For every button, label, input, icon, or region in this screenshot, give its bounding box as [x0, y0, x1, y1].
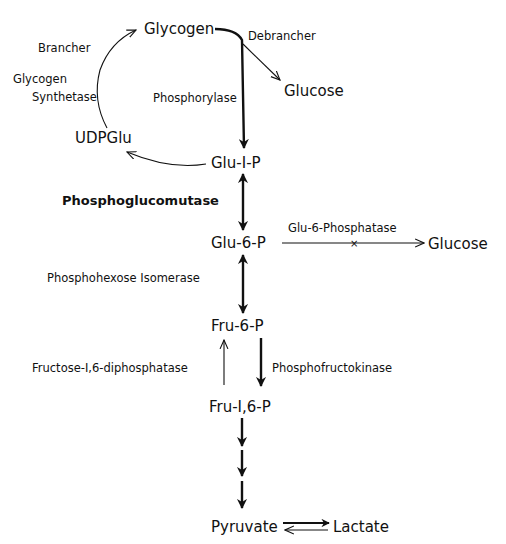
enzyme-debrancher: Debrancher [248, 29, 316, 43]
node-glu-1-p: Glu-I-P [211, 154, 261, 172]
enzyme-phosphohexose-isomerase: Phosphohexose Isomerase [47, 271, 200, 285]
glycogen-metabolism-diagram: Glycogen Glucose UDPGlu Glu-I-P Glu-6-P … [0, 0, 506, 544]
enzyme-phosphorylase: Phosphorylase [153, 91, 237, 105]
enzyme-brancher: Brancher [38, 41, 91, 55]
enzyme-phosphoglucomutase: Phosphoglucomutase [62, 193, 219, 208]
node-fru-1-6-p: Fru-I,6-P [209, 398, 271, 416]
node-fru-6-p: Fru-6-P [211, 317, 264, 335]
arrow-udpglu-to-glycogen [97, 30, 136, 128]
node-glucose-debrancher: Glucose [284, 82, 344, 100]
enzyme-glycogen-synthetase-line2: Synthetase [32, 90, 97, 104]
node-glucose-phosphatase: Glucose [428, 235, 488, 253]
arrow-debrancher [243, 44, 280, 80]
node-glycogen: Glycogen [144, 20, 214, 38]
arrow-glu1p-to-udpglu [127, 152, 206, 166]
node-glu-6-p: Glu-6-P [211, 234, 266, 252]
node-pyruvate: Pyruvate [211, 518, 278, 536]
blocked-mark-icon: × [350, 238, 358, 249]
enzyme-phosphofructokinase: Phosphofructokinase [272, 361, 392, 375]
enzyme-fructose-diphosphatase: Fructose-I,6-diphosphatase [32, 361, 188, 375]
arrow-phosphorylase [215, 29, 244, 148]
node-lactate: Lactate [333, 518, 389, 536]
enzyme-glycogen-synthetase-line1: Glycogen [13, 72, 67, 86]
node-udpglu: UDPGlu [75, 129, 132, 147]
enzyme-glu-6-phosphatase: Glu-6-Phosphatase [288, 221, 397, 235]
